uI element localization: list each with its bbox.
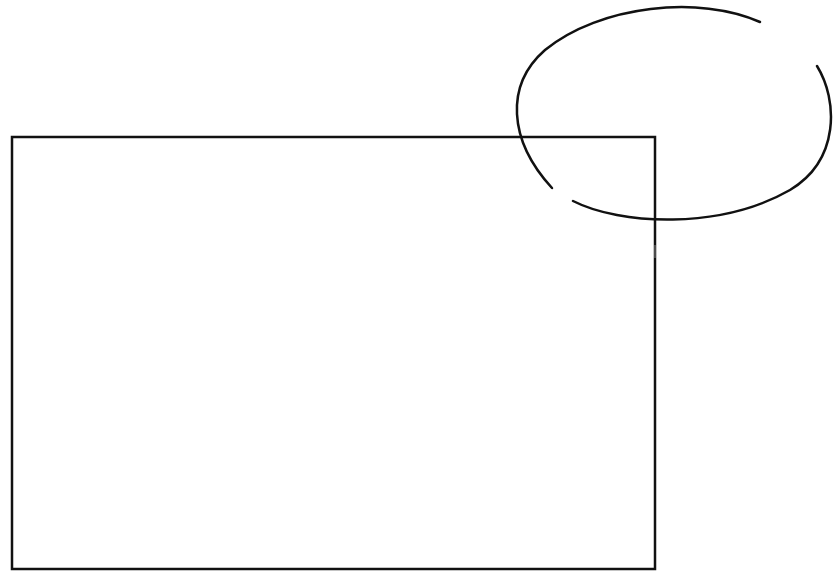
ellipse-shape (517, 7, 831, 219)
rectangle-shape (12, 137, 655, 569)
drawing-canvas (0, 0, 833, 577)
